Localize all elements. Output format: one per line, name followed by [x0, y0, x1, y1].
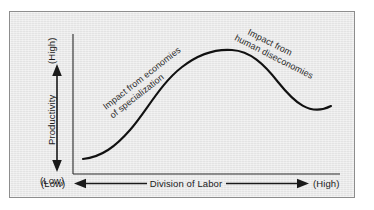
productivity-division-of-labor-chart: (High) (Low) Productivity (Low): [10, 12, 354, 197]
x-axis-high-label: (High): [313, 178, 339, 189]
diagram-plate: (High) (Low) Productivity (Low): [9, 11, 355, 198]
y-axis-group: (High) (Low) Productivity: [40, 34, 73, 186]
y-axis-high-label: (High): [46, 38, 57, 64]
x-axis-low-label: (Low): [41, 178, 65, 189]
x-axis-group: (Low) Division of Labor (High): [41, 174, 340, 189]
x-axis-title: Division of Labor: [150, 178, 222, 189]
annotation-human-diseconomies: Impact from human diseconomies: [233, 23, 320, 81]
y-axis-title: Productivity: [46, 95, 57, 145]
x-axis-arrow-left-icon: [74, 179, 86, 188]
y-axis-arrow-up-icon: [52, 64, 62, 76]
x-axis-arrow-right-icon: [297, 179, 309, 188]
y-axis-arrow-down-icon: [52, 160, 62, 172]
figure-container: (High) (Low) Productivity (Low): [0, 0, 374, 210]
